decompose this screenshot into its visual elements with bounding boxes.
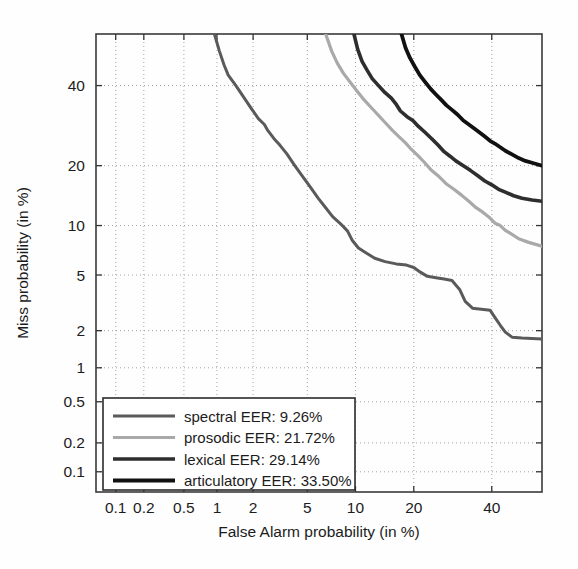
x-tick-label: 0.2 bbox=[133, 499, 155, 516]
det-curve-figure: 0.10.20.5125102040 0.10.20.5125102040 Fa… bbox=[0, 0, 578, 569]
legend-label-prosodic: prosodic EER: 21.72% bbox=[184, 429, 335, 446]
x-tick-label: 0.5 bbox=[173, 499, 195, 516]
x-tick-label: 40 bbox=[483, 499, 501, 516]
y-tick-label: 0.5 bbox=[63, 393, 85, 410]
y-tick-label: 2 bbox=[76, 322, 85, 339]
legend-label-spectral: spectral EER: 9.26% bbox=[184, 408, 322, 425]
x-axis-title: False Alarm probability (in %) bbox=[218, 523, 420, 540]
x-tick-label: 1 bbox=[213, 499, 222, 516]
y-tick-label: 10 bbox=[68, 217, 86, 234]
legend-label-articulatory: articulatory EER: 33.50% bbox=[184, 472, 352, 489]
x-tick-label: 0.1 bbox=[105, 499, 127, 516]
legend[interactable]: spectral EER: 9.26%prosodic EER: 21.72%l… bbox=[103, 398, 355, 490]
y-tick-label: 5 bbox=[76, 267, 85, 284]
y-tick-label: 40 bbox=[68, 77, 86, 94]
x-tick-label: 20 bbox=[405, 499, 423, 516]
x-tick-label: 10 bbox=[347, 499, 365, 516]
det-plot-svg: 0.10.20.5125102040 0.10.20.5125102040 Fa… bbox=[0, 0, 578, 569]
y-tick-label: 0.1 bbox=[63, 463, 85, 480]
y-tick-label: 1 bbox=[76, 359, 85, 376]
x-tick-label: 2 bbox=[249, 499, 258, 516]
x-tick-label: 5 bbox=[303, 499, 312, 516]
y-tick-label: 20 bbox=[68, 157, 86, 174]
legend-label-lexical: lexical EER: 29.14% bbox=[184, 451, 320, 468]
y-axis-title: Miss probability (in %) bbox=[14, 187, 31, 339]
y-tick-label: 0.2 bbox=[63, 434, 85, 451]
